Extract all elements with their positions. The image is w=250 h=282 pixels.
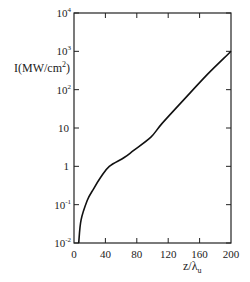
x-tick-label: 120 xyxy=(160,248,177,260)
y-ticks xyxy=(74,13,231,243)
x-ticks xyxy=(105,13,199,243)
y-tick-label: 1 xyxy=(64,160,70,172)
y-tick-label: 10-1 xyxy=(54,198,71,211)
x-tick-label: 80 xyxy=(131,248,143,260)
plot-frame xyxy=(74,13,231,243)
x-tick-label: 200 xyxy=(223,248,240,260)
y-tick-labels: 10410310210110-110-2 xyxy=(54,6,71,249)
y-tick-label: 104 xyxy=(57,6,72,19)
y-tick-label: 10 xyxy=(58,122,70,134)
y-axis-label: I(MW/cm2) xyxy=(14,60,70,75)
x-tick-label: 0 xyxy=(71,248,77,260)
y-tick-label: 10-2 xyxy=(54,236,71,249)
x-tick-label: 40 xyxy=(100,248,112,260)
x-axis-label: z/λu xyxy=(183,259,201,275)
x-tick-labels: 04080120160200 xyxy=(71,248,240,260)
intensity-curve xyxy=(79,51,231,243)
chart: 10410310210110-110-2 04080120160200 I(MW… xyxy=(0,0,250,282)
y-tick-label: 102 xyxy=(57,83,72,96)
y-tick-label: 103 xyxy=(57,44,72,57)
